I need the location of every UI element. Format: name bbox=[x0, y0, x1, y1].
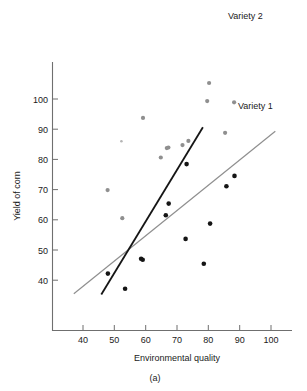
x-tick-label-40: 40 bbox=[78, 335, 88, 345]
data-point bbox=[232, 174, 237, 179]
y-axis-title: Yield of corn bbox=[12, 171, 22, 221]
data-point bbox=[180, 143, 184, 147]
variety2-points-group bbox=[106, 81, 237, 220]
data-point bbox=[141, 116, 145, 120]
data-point bbox=[224, 184, 229, 189]
variety1-fit-line bbox=[101, 127, 203, 294]
data-point bbox=[208, 221, 213, 226]
y-tick-label-50: 50 bbox=[38, 246, 48, 256]
x-axis-title: Environmental quality bbox=[134, 353, 221, 363]
x-tick-label-70: 70 bbox=[172, 335, 182, 345]
y-tick-label-100: 100 bbox=[33, 95, 48, 105]
data-point bbox=[183, 237, 188, 242]
data-point bbox=[202, 261, 207, 266]
data-point bbox=[164, 213, 169, 218]
data-point bbox=[120, 216, 124, 220]
x-tick-label-60: 60 bbox=[141, 335, 151, 345]
y-tick-label-40: 40 bbox=[38, 276, 48, 286]
data-point bbox=[184, 162, 189, 167]
data-point bbox=[232, 100, 236, 104]
data-point bbox=[166, 145, 170, 149]
scatter-plot: 100 90 80 70 60 50 40 40 50 60 70 80 90 … bbox=[0, 0, 307, 391]
data-point bbox=[207, 81, 211, 85]
fit-lines-group bbox=[74, 127, 275, 294]
x-tick-labels: 40 50 60 70 80 90 100 bbox=[78, 335, 279, 345]
data-point bbox=[120, 140, 123, 143]
y-tick-marks bbox=[53, 99, 59, 280]
data-point bbox=[106, 188, 110, 192]
y-tick-labels: 100 90 80 70 60 50 40 bbox=[33, 95, 48, 286]
data-point bbox=[140, 257, 145, 262]
x-tick-label-90: 90 bbox=[235, 335, 245, 345]
figure-container: 100 90 80 70 60 50 40 40 50 60 70 80 90 … bbox=[0, 0, 307, 391]
series-label-variety2: Variety 2 bbox=[228, 11, 263, 21]
y-tick-label-70: 70 bbox=[38, 185, 48, 195]
series-label-variety1: Variety 1 bbox=[238, 101, 273, 111]
data-point bbox=[106, 271, 111, 276]
data-point bbox=[159, 155, 163, 159]
data-point bbox=[223, 131, 227, 135]
x-tick-marks bbox=[83, 325, 271, 331]
variety2-fit-line bbox=[74, 131, 275, 294]
y-tick-label-80: 80 bbox=[38, 155, 48, 165]
data-point bbox=[186, 139, 190, 143]
y-tick-label-60: 60 bbox=[38, 215, 48, 225]
data-point bbox=[205, 99, 209, 103]
x-tick-label-100: 100 bbox=[263, 335, 278, 345]
figure-caption: (a) bbox=[150, 373, 161, 383]
x-tick-label-80: 80 bbox=[203, 335, 213, 345]
y-tick-label-90: 90 bbox=[38, 125, 48, 135]
data-point bbox=[166, 201, 171, 206]
variety1-points-group bbox=[106, 162, 237, 291]
x-tick-label-50: 50 bbox=[109, 335, 119, 345]
data-point bbox=[123, 286, 128, 291]
